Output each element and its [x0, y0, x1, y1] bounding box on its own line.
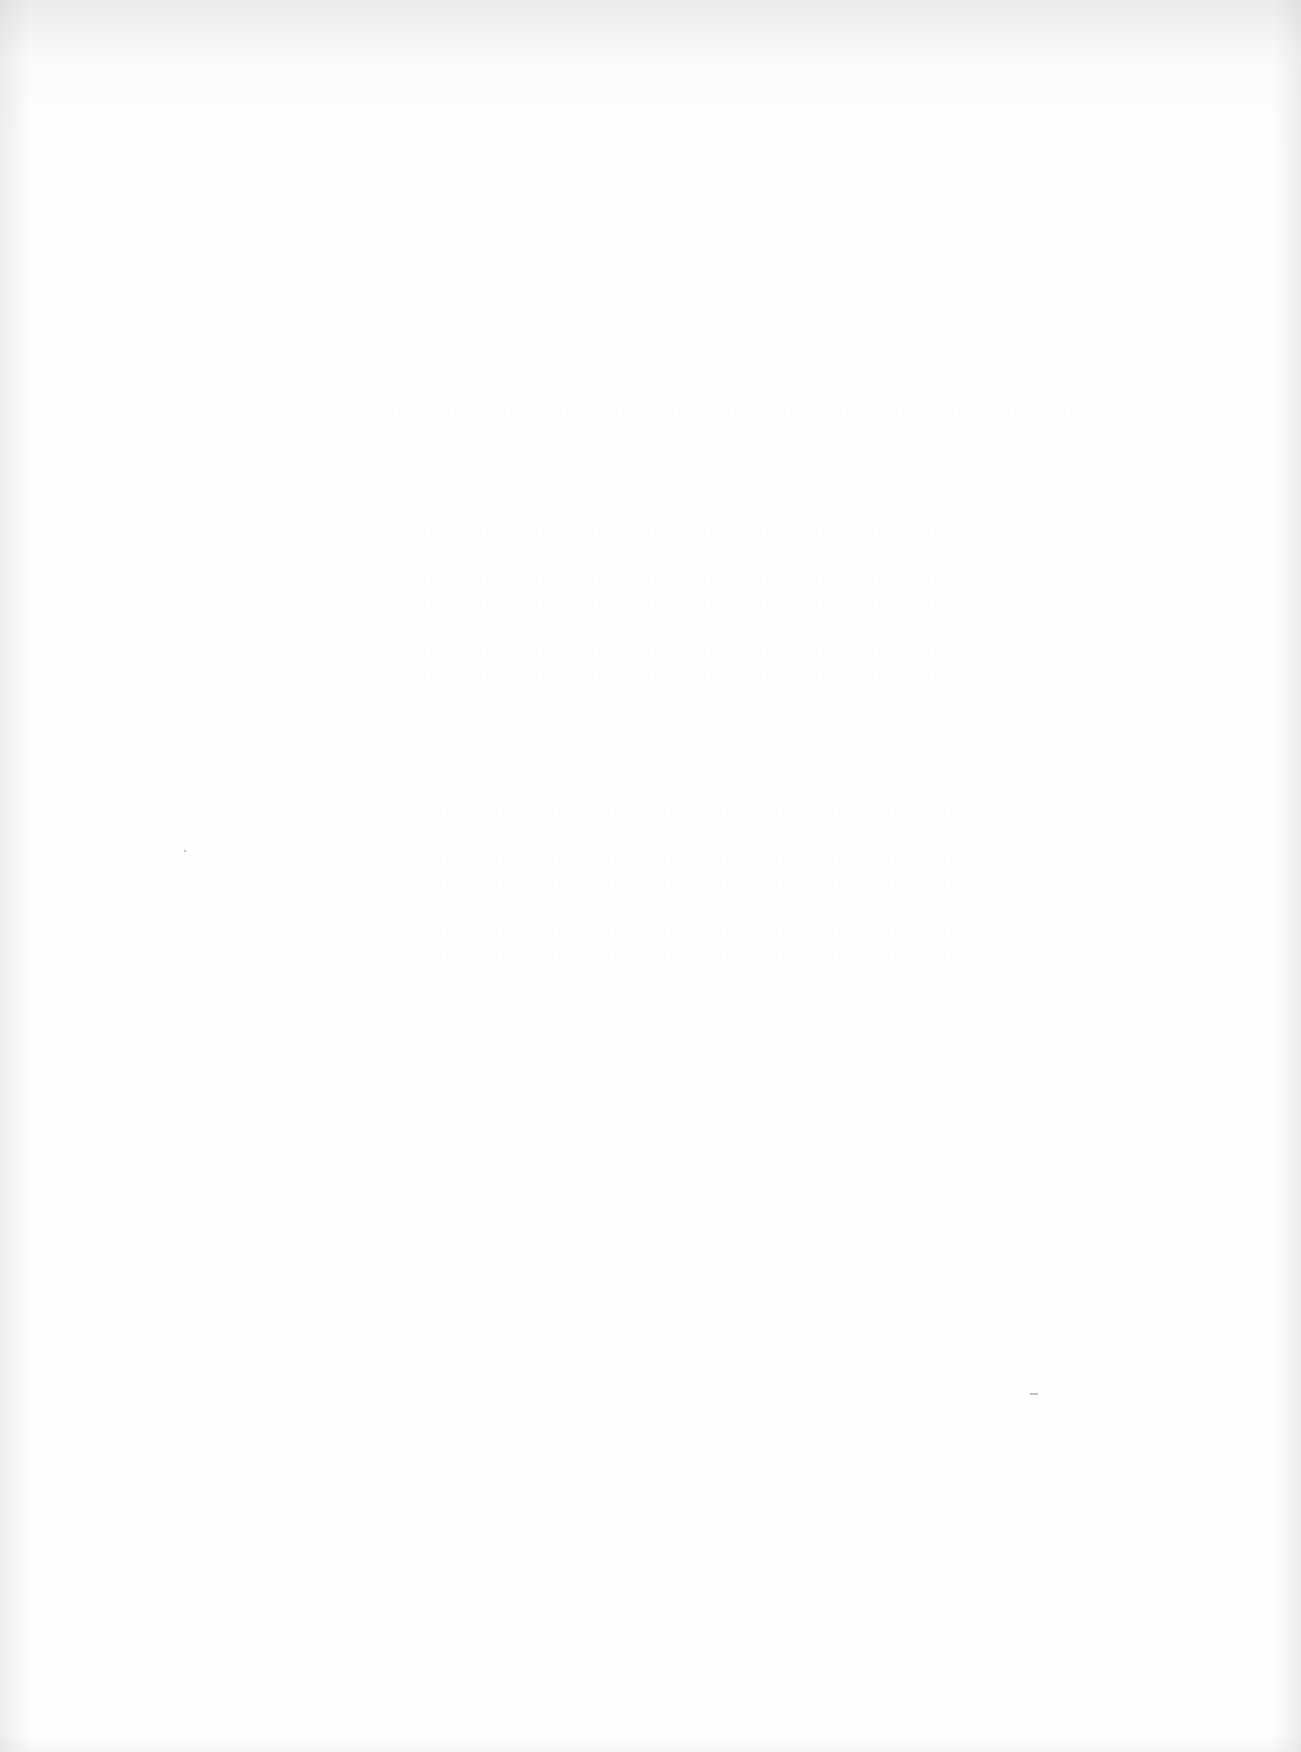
- blank-scanned-page: [0, 0, 1301, 1752]
- bleed-through-noise: [340, 370, 1120, 430]
- bleed-through-noise: [400, 520, 960, 680]
- bleed-through-noise: [430, 800, 990, 980]
- scan-speck: [184, 850, 186, 852]
- scan-edge-shadow: [0, 0, 1301, 1752]
- scan-speck: [1030, 1393, 1038, 1395]
